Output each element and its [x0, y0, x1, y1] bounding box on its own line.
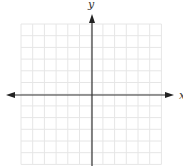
coordinate-plane: y x — [0, 0, 183, 166]
y-axis-label: y — [87, 0, 95, 11]
grid-lines — [21, 24, 161, 164]
x-axis-label: x — [179, 89, 183, 102]
axes — [6, 14, 174, 166]
arrow-right-icon — [165, 92, 174, 98]
arrow-up-icon — [89, 14, 95, 23]
arrow-left-icon — [6, 92, 15, 98]
